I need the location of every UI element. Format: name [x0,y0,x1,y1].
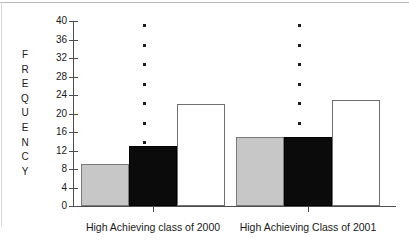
bar-gray-group-2 [236,137,284,206]
y-axis-title-letter: U [18,106,32,121]
y-axis-tick-label: 24 [56,88,67,101]
bar-gray-group-1 [81,164,129,206]
x-axis-category-label-1: High Achieving class of 2000 [63,221,243,234]
y-axis-tick-mark [69,206,78,207]
separator-dot [298,102,301,105]
bar-black-group-1 [129,146,177,206]
y-axis-tick-label: 20 [56,107,67,120]
y-axis-tick-mark [69,114,78,115]
bar-chart-figure: F R E Q U E N C Y 4036322824201612840 Hi… [0,0,409,244]
y-axis-title-letter: N [18,136,32,151]
y-axis-tick-mark [69,132,78,133]
x-axis-tick-mark [153,206,154,212]
y-axis-tick-mark [69,188,78,189]
separator-dot [143,24,146,27]
separator-dot [143,102,146,105]
y-axis-title-letter: E [18,121,32,136]
y-axis-tick-label: 32 [56,51,67,64]
separator-dot [298,24,301,27]
bar-white-group-2 [332,100,380,206]
separator-dot [298,44,301,47]
separator-dot [143,141,146,144]
y-axis-tick-label: 40 [56,14,67,27]
x-axis-line [73,206,396,207]
y-axis-tick-label: 8 [61,162,67,175]
bar-white-group-1 [177,104,225,206]
y-axis-tick-label: 36 [56,33,67,46]
separator-dot [143,44,146,47]
y-axis-title-letter: R [18,63,32,78]
y-axis-tick-mark [69,169,78,170]
y-axis-tick-mark [69,21,78,22]
y-axis-tick-label: 12 [56,144,67,157]
separator-dot [298,83,301,86]
separator-dot [298,63,301,66]
y-axis-title-letter: Y [18,165,32,180]
plot-area: 4036322824201612840 [73,21,395,206]
y-axis-title-letter: E [18,77,32,92]
separator-dot [143,122,146,125]
figure-top-border [0,2,409,3]
y-axis-title-letter: Q [18,92,32,107]
y-axis-tick-label: 4 [61,181,67,194]
x-axis-category-label-2: High Achieving Class of 2001 [218,221,398,234]
y-axis-tick-mark [69,58,78,59]
y-axis-tick-label: 0 [61,199,67,212]
x-axis-tick-mark [308,206,309,212]
separator-dot [143,63,146,66]
separator-dot [298,122,301,125]
separator-dot [143,83,146,86]
y-axis-tick-label: 16 [56,125,67,138]
bar-black-group-2 [284,137,332,206]
y-axis-tick-mark [69,40,78,41]
y-axis-title: F R E Q U E N C Y [18,48,32,179]
y-axis-tick-label: 28 [56,70,67,83]
y-axis-title-letter: F [18,48,32,63]
figure-left-border [1,2,2,227]
y-axis-tick-mark [69,95,78,96]
y-axis-title-letter: C [18,150,32,165]
y-axis-tick-mark [69,151,78,152]
y-axis-tick-mark [69,77,78,78]
